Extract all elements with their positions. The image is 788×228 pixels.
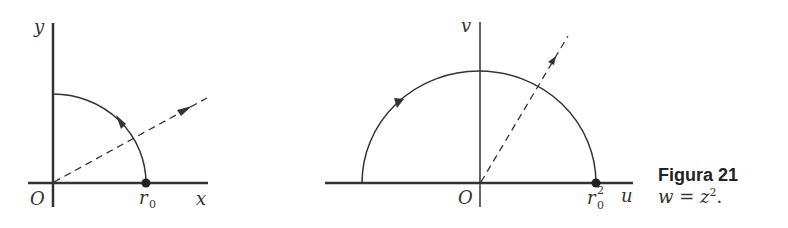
- r0-label: r: [139, 187, 149, 208]
- eq-z: z: [700, 186, 709, 207]
- left-plot: y O x r 0: [28, 16, 208, 211]
- r0-squared-label: r: [587, 187, 597, 208]
- eq-equals: =: [673, 186, 700, 207]
- eq-period: .: [716, 186, 722, 207]
- u-axis-label: u: [621, 185, 633, 206]
- r0-subscript: 0: [149, 198, 156, 211]
- y-axis-label: y: [33, 16, 45, 37]
- arc-arrow-icon: [394, 98, 404, 108]
- v-axis-label: v: [461, 15, 471, 36]
- eq-w: w: [658, 186, 673, 207]
- x-axis-label: x: [196, 188, 206, 209]
- semicircle-arc: [362, 71, 596, 183]
- origin-label: O: [458, 187, 473, 208]
- r0-squared-subscript: 0: [597, 199, 604, 212]
- ray-arrow-icon: [548, 56, 556, 65]
- right-plot: v O u r 2 0: [325, 15, 633, 212]
- figure-caption-title: Figura 21: [658, 165, 738, 186]
- figure-caption-equation: w = z2.: [658, 186, 722, 207]
- r0-squared-superscript: 2: [597, 184, 604, 197]
- origin-label: O: [30, 188, 45, 209]
- ray-arrow-icon: [177, 106, 192, 116]
